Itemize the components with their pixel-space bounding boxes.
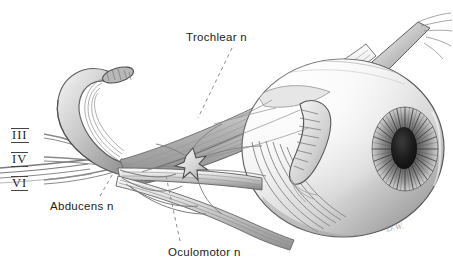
label-trochlear-nerve: Trochlear n (186, 31, 247, 43)
label-abducens-nerve: Abducens n (50, 200, 114, 212)
nerve-numeral-iv: IV (11, 152, 28, 167)
nerve-numeral-vi: VI (11, 176, 28, 191)
eyeball (242, 59, 444, 245)
superior-oblique-tendon (372, 13, 452, 74)
nerve-numeral-iii: III (11, 128, 29, 143)
pupil (391, 127, 417, 169)
label-oculomotor-nerve: Oculomotor n (168, 246, 241, 258)
anatomical-illustration: III IV VI Trochlear n Abducens n Oculomo… (0, 0, 453, 279)
trochlear-leader (198, 48, 232, 118)
